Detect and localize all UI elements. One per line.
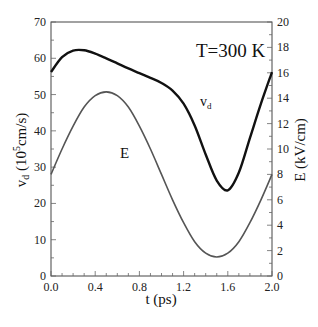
y-left-tick-label: 60 [34, 51, 46, 65]
y-right-axis-title: E (kV/cm) [292, 118, 309, 182]
y-left-tick-label: 0 [40, 269, 46, 283]
y-right-tick-labels: 02468101214161820 [277, 15, 289, 283]
series-vd-line [51, 50, 272, 191]
y-right-tick-label: 10 [277, 142, 289, 156]
y-left-tick-labels: 010203040506070 [34, 15, 46, 283]
x-axis-title: t (ps) [145, 291, 176, 308]
y-right-tick-label: 2 [277, 244, 283, 258]
y-left-tick-label: 70 [34, 15, 46, 29]
y-right-tick-label: 20 [277, 15, 289, 29]
vd-series-label: vd [200, 94, 212, 111]
x-tick-label: 0.4 [88, 280, 103, 294]
y-left-axis-title: vd (105cm/s) [11, 113, 31, 188]
y-left-tick-label: 10 [34, 233, 46, 247]
y-right-tick-label: 12 [277, 117, 289, 131]
temperature-annotation: T=300 K [196, 40, 266, 61]
chart: 0.00.40.81.21.62.0 010203040506070 02468… [0, 0, 318, 327]
y-right-tick-label: 16 [277, 66, 289, 80]
y-right-tick-label: 4 [277, 218, 283, 232]
x-tick-label: 1.6 [220, 280, 235, 294]
x-tick-label: 1.2 [176, 280, 191, 294]
y-right-tick-label: 0 [277, 269, 283, 283]
y-left-tick-label: 20 [34, 196, 46, 210]
y-left-tick-label: 50 [34, 88, 46, 102]
y-left-tick-label: 40 [34, 124, 46, 138]
e-series-label: E [120, 145, 129, 161]
y-left-tick-label: 30 [34, 160, 46, 174]
y-right-tick-label: 8 [277, 167, 283, 181]
y-right-tick-label: 6 [277, 193, 283, 207]
y-right-tick-label: 18 [277, 40, 289, 54]
y-right-tick-label: 14 [277, 91, 289, 105]
